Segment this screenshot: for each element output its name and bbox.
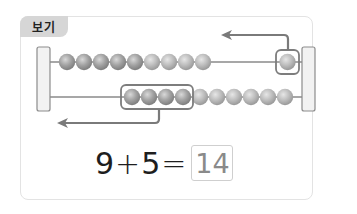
left-frame xyxy=(37,47,50,111)
right-frame xyxy=(302,47,315,111)
top-moving-bead xyxy=(279,54,295,70)
top-arrow xyxy=(228,35,288,50)
equation-left-operand: 9 xyxy=(95,146,114,181)
bottom-arrow xyxy=(64,109,159,123)
equation-plus: + xyxy=(115,146,140,181)
answer-value: 14 xyxy=(195,148,229,179)
top-row-beads xyxy=(59,54,211,70)
equation-equals: = xyxy=(161,146,186,181)
equation-right-operand: 5 xyxy=(141,146,160,181)
equation: 9 + 5 = 14 xyxy=(95,143,233,183)
answer-box: 14 xyxy=(191,145,233,181)
